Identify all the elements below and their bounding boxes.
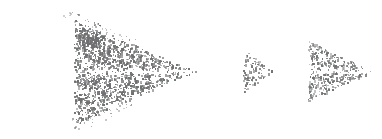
canvas-background	[0, 0, 382, 139]
diagram-svg	[0, 0, 382, 139]
diagram-canvas	[0, 0, 382, 139]
